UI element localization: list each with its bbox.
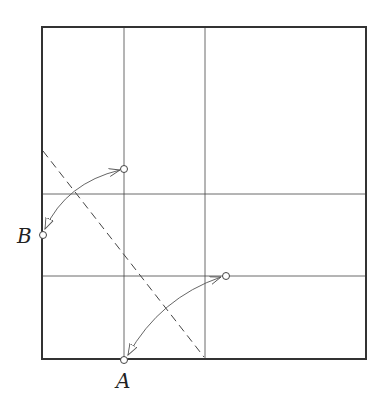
arrow-b-to-upper-point [45,170,120,229]
point-a-marker [121,357,128,364]
upper-point-marker [121,166,128,173]
label-b: B [16,224,32,248]
folding-diagram: B A [0,0,386,398]
arrow-a-to-lower-point [128,277,221,355]
lower-point-marker [223,273,230,280]
fold-line-dashed [43,151,204,357]
point-b-marker [40,232,47,239]
square-outline [42,27,366,359]
label-a: A [114,369,130,393]
